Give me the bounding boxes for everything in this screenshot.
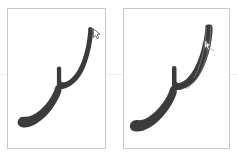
stroke-canvas-left — [8, 9, 106, 149]
arabic-letter-tail — [130, 86, 177, 132]
canvas-stage — [0, 0, 238, 160]
arabic-letter-stroke — [57, 27, 93, 89]
cursor-arrow-icon — [93, 29, 100, 39]
calligraphy-panel-right[interactable] — [123, 8, 230, 149]
stroke-canvas-right — [124, 9, 230, 149]
calligraphy-panel-left[interactable] — [7, 8, 106, 149]
arabic-letter-tail — [18, 85, 62, 127]
